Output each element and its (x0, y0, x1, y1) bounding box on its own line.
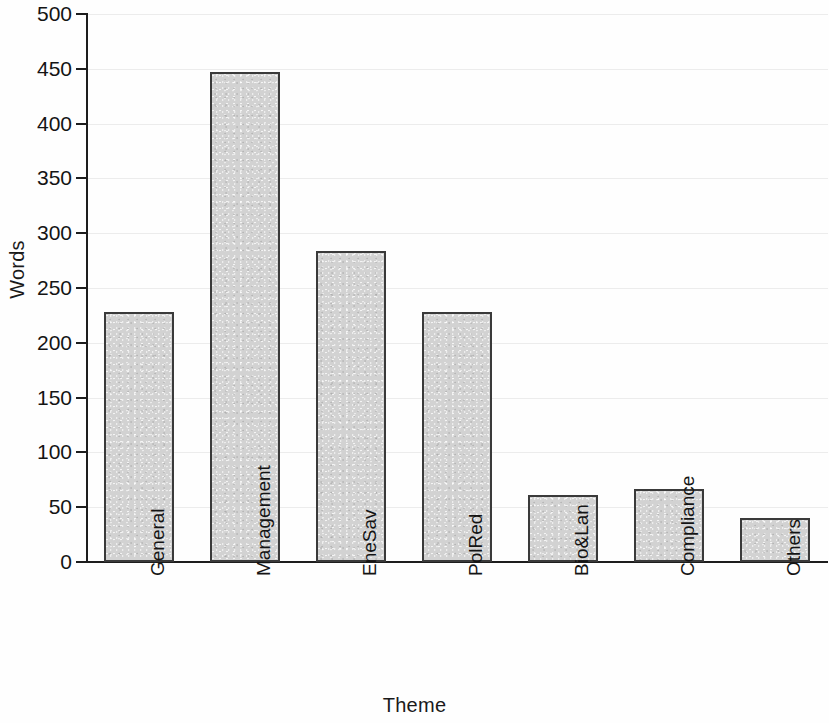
y-axis-tick-label: 100 (10, 441, 72, 462)
x-axis-tick-label: Others (784, 519, 803, 576)
x-axis-tick-label: EneSav (360, 509, 379, 576)
y-axis-tick-label: 0 (10, 551, 72, 572)
x-axis-tick-label: Bio&Lan (572, 504, 591, 576)
y-axis-tick-label: 300 (10, 222, 72, 243)
x-axis-tick-label: PolRed (466, 514, 485, 576)
y-axis-tick-label: 350 (10, 167, 72, 188)
y-axis-tick-label: 400 (10, 113, 72, 134)
y-axis-tick-label: 250 (10, 277, 72, 298)
plot-area (86, 14, 828, 562)
x-axis-tick-label: Compliance (678, 476, 697, 576)
y-axis-tick-label: 50 (10, 496, 72, 517)
x-axis-tick-label: General (148, 508, 167, 576)
y-axis-tick-label: 150 (10, 387, 72, 408)
x-axis-tick-label: Management (254, 465, 273, 576)
y-axis-tick-label: 200 (10, 332, 72, 353)
y-axis-tick-label: 450 (10, 58, 72, 79)
x-axis-title: Theme (0, 694, 829, 717)
bar-chart-figure: Words Theme 0501001502002503003504004505… (0, 0, 829, 723)
y-axis-tick-label: 500 (10, 3, 72, 24)
